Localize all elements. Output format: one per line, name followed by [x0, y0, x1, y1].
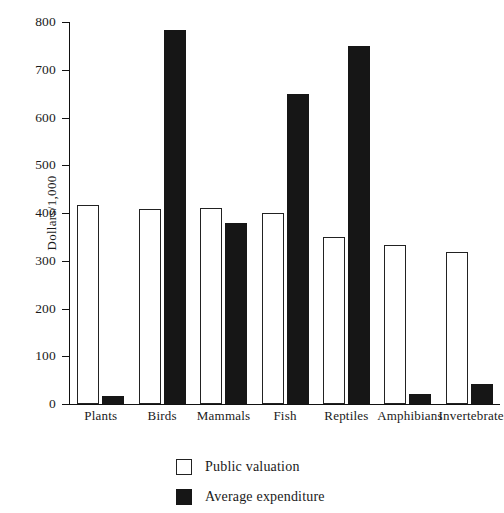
- y-axis-tick: [62, 309, 70, 310]
- x-axis-label-amphibians: Amphibians: [377, 409, 438, 423]
- y-axis-tick: [62, 22, 70, 23]
- x-axis-line: [69, 404, 500, 405]
- bar-birds-average-expenditure: [164, 30, 186, 404]
- legend-label-public-valuation: Public valuation: [205, 459, 300, 475]
- bar-fish-average-expenditure: [287, 94, 309, 404]
- legend-label-average-expenditure: Average expenditure: [205, 489, 325, 505]
- bar-fish-public-valuation: [262, 213, 284, 404]
- y-axis-tick-label: 400: [0, 206, 56, 220]
- y-axis-tick-label: 200: [0, 302, 56, 316]
- y-axis-tick-label: 700: [0, 63, 56, 77]
- bar-mammals-average-expenditure: [225, 223, 247, 404]
- bar-invertebrates-average-expenditure: [471, 384, 493, 404]
- y-axis-tick-label: 100: [0, 349, 56, 363]
- bar-mammals-public-valuation: [200, 208, 222, 404]
- y-axis-tick: [62, 165, 70, 166]
- y-axis-tick: [62, 213, 70, 214]
- y-axis-tick: [62, 404, 70, 405]
- x-axis-label-fish: Fish: [254, 409, 315, 423]
- x-axis-label-birds: Birds: [131, 409, 192, 423]
- x-axis-label-invertebrates: Invertebrates: [439, 409, 500, 423]
- x-axis-label-reptiles: Reptiles: [316, 409, 377, 423]
- y-axis-tick: [62, 70, 70, 71]
- bar-chart: Dollars/1,000 0100200300400500600700800 …: [0, 0, 504, 513]
- plot-area: [70, 22, 500, 404]
- chart-legend: Public valuation Average expenditure: [176, 452, 436, 512]
- bar-birds-public-valuation: [139, 209, 161, 404]
- bar-amphibians-average-expenditure: [409, 394, 431, 405]
- bar-plants-public-valuation: [77, 205, 99, 404]
- y-axis-tick-label: 800: [0, 15, 56, 29]
- y-axis-tick-label: 600: [0, 111, 56, 125]
- y-axis-tick-label: 500: [0, 158, 56, 172]
- y-axis-tick: [62, 356, 70, 357]
- x-axis-label-mammals: Mammals: [193, 409, 254, 423]
- legend-swatch-public-valuation: [176, 459, 192, 475]
- bar-plants-average-expenditure: [102, 396, 124, 404]
- legend-item-public-valuation: Public valuation: [176, 452, 436, 482]
- y-axis-tick-label: 0: [0, 397, 56, 411]
- bar-amphibians-public-valuation: [384, 245, 406, 404]
- bar-invertebrates-public-valuation: [446, 252, 468, 404]
- legend-item-average-expenditure: Average expenditure: [176, 482, 436, 512]
- y-axis-tick-label: 300: [0, 254, 56, 268]
- legend-swatch-average-expenditure: [176, 489, 192, 505]
- y-axis-tick: [62, 261, 70, 262]
- bar-reptiles-average-expenditure: [348, 46, 370, 404]
- y-axis-tick: [62, 118, 70, 119]
- x-axis-label-plants: Plants: [70, 409, 131, 423]
- bar-reptiles-public-valuation: [323, 237, 345, 404]
